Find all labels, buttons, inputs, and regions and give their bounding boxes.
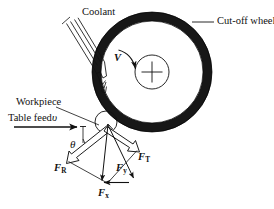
table-feed-symbol: υ: [52, 111, 57, 123]
force-vector-FT: [104, 127, 140, 153]
force-label-Fy: Fy: [116, 163, 127, 174]
force-base-Fy: F: [116, 162, 123, 173]
force-sub-FT: T: [145, 156, 150, 164]
force-base-FT: F: [138, 151, 145, 162]
cut-off-grinding-diagram: Coolant Cut-off wheel Workpiece Table fe…: [0, 0, 274, 209]
table-feed-text: Table feed: [8, 112, 52, 123]
wheel-speed-label: V: [114, 53, 121, 64]
force-sub-Fy: y: [123, 167, 127, 175]
force-base-FR: F: [54, 162, 61, 173]
force-sub-Fx: x: [105, 192, 109, 200]
table-feed-label: Table feedυ: [8, 112, 57, 124]
wheel-rotation-arrow-icon: [119, 50, 136, 69]
coolant-leader-line: [62, 17, 70, 24]
force-sub-FR: R: [61, 167, 66, 175]
coolant-nozzle-icon: [67, 18, 107, 93]
cut-off-wheel-label: Cut-off wheel: [217, 16, 274, 27]
angle-theta-label: θ: [70, 139, 75, 150]
force-base-Fx: F: [98, 187, 105, 198]
force-label-Fx: Fx: [98, 188, 109, 199]
workpiece-label: Workpiece: [16, 97, 61, 108]
wheel-hub: [135, 55, 169, 89]
workpiece-leader-line: [56, 107, 99, 125]
coolant-label: Coolant: [82, 7, 115, 18]
force-label-FT: FT: [138, 152, 150, 163]
force-label-FR: FR: [54, 163, 66, 174]
